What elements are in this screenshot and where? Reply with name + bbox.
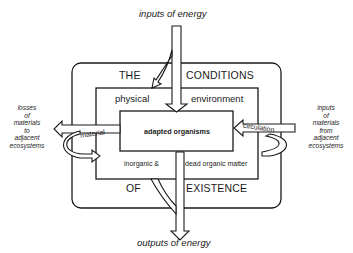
right-circulation-loop: [262, 134, 287, 156]
energy-output-branch: [151, 179, 176, 214]
middle-label-dead-organic: dead organic matter: [185, 160, 247, 167]
left-side-line: materials: [4, 119, 50, 127]
right-side-line: inputs: [303, 104, 349, 112]
outer-label-the: THE: [119, 70, 141, 81]
left-side-line: losses: [4, 104, 50, 112]
inputs-of-materials-text: inputs of materials from adjacent ecosys…: [303, 104, 349, 150]
outputs-of-energy-label: outputs of energy: [137, 238, 210, 248]
energy-branch-arrow: [152, 50, 172, 88]
left-side-line: adjacent: [4, 134, 50, 142]
outer-label-conditions: CONDITIONS: [186, 70, 254, 81]
right-side-line: of: [303, 112, 349, 120]
right-side-line: from: [303, 127, 349, 135]
middle-label-environment: environment: [191, 94, 243, 104]
right-side-line: adjacent: [303, 134, 349, 142]
outer-label-of: OF: [126, 183, 141, 194]
middle-label-physical: physical: [115, 94, 149, 104]
adapted-organisms-label: adapted organisms: [144, 128, 210, 135]
left-side-line: to: [4, 127, 50, 135]
right-side-line: ecosystems: [303, 142, 349, 150]
energy-input-arrow: [166, 26, 187, 112]
left-side-line: ecosystems: [4, 142, 50, 150]
left-side-line: of: [4, 112, 50, 120]
right-side-line: materials: [303, 119, 349, 127]
ecosystem-diagram: inputs of energy outputs of energy THE C…: [0, 0, 353, 253]
losses-of-materials-text: losses of materials to adjacent ecosyste…: [4, 104, 50, 150]
middle-label-inorganic: inorganic &: [124, 160, 159, 167]
outer-label-existence: EXISTENCE: [186, 183, 247, 194]
inputs-of-energy-label: inputs of energy: [139, 9, 207, 19]
